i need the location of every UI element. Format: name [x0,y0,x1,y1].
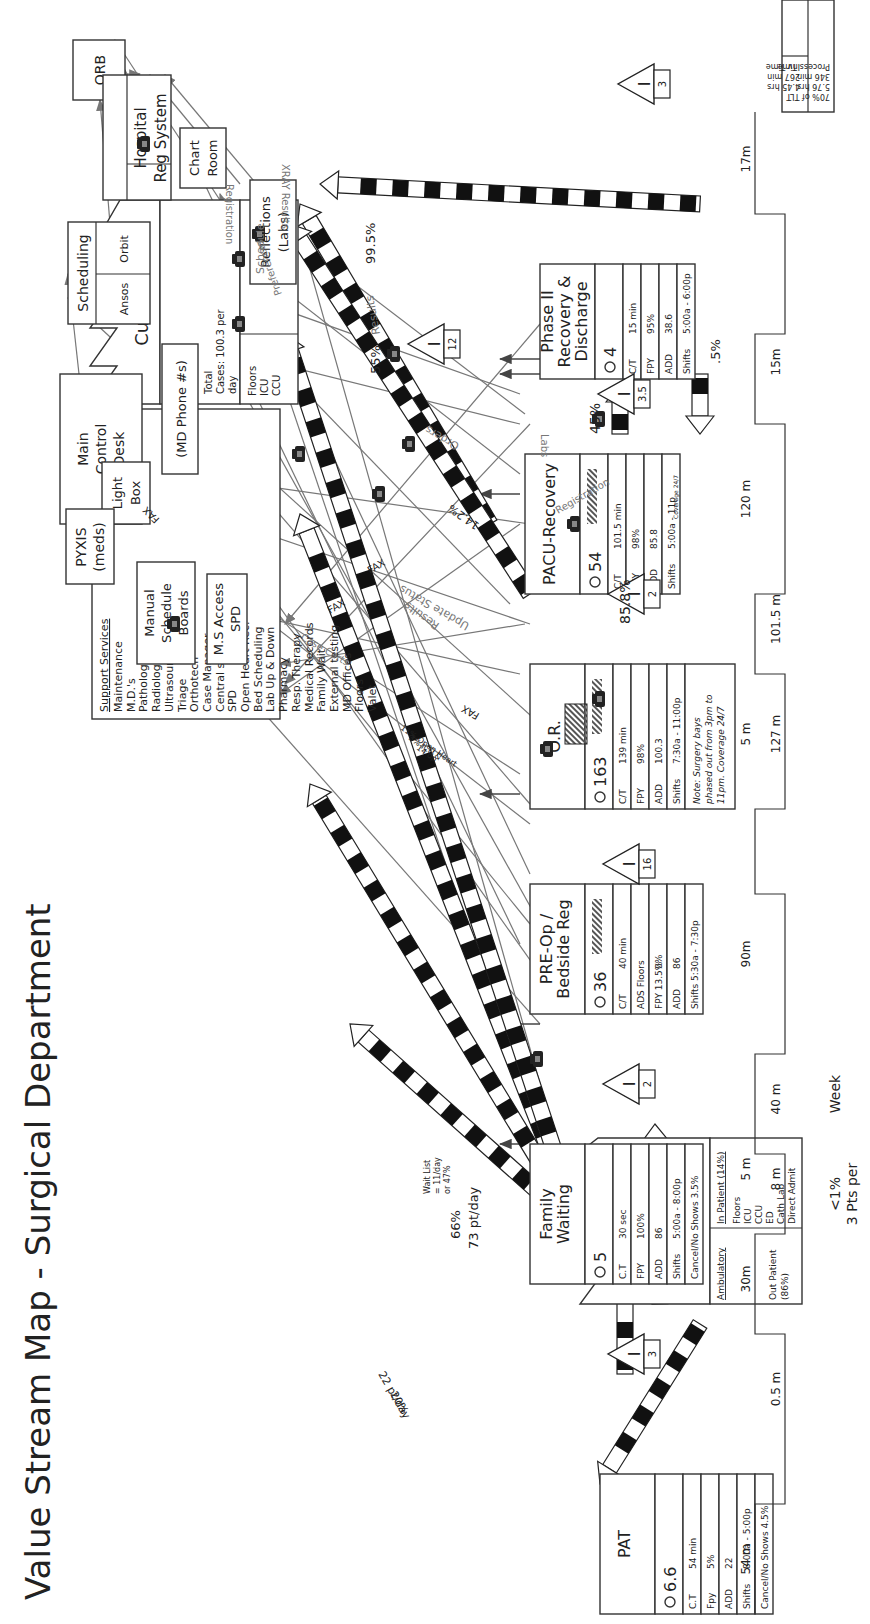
metric-value: 95% [646,314,656,334]
process-note: phased out from 3pm to [704,694,714,805]
support-service-item: Lab Up & Down [264,627,277,712]
chart-room-2: Room [205,139,220,176]
phone-icon [372,486,385,502]
process-or: O.R.163C/T139 minFPY98%ADD100.3Shifts7:3… [530,664,735,809]
metric-value: 5:00a - 8:00p [672,1178,682,1239]
operator-count: 54 [586,552,605,572]
phone-icon [402,436,415,452]
support-service-item: Resp. Therapy [290,633,303,712]
manual-schedule-boards-box: Manual Schedule Boards [137,562,195,664]
ms-access-spd-box: M.S Access SPD [207,574,247,664]
process-name: PACU-Recovery [540,463,559,585]
main-control-desk-box: Main Control Desk Light Box [60,374,150,524]
phase2-back-pct: .5% [708,339,723,364]
timeline-process-time: 0.5 m [769,1372,783,1407]
schedule-board-icon [565,704,587,744]
light-box-1: Light [110,477,125,509]
label-fax-3: FAX [366,557,388,576]
main-control-1: Main [75,432,91,465]
metric-value: 98% [636,744,646,764]
timeline-wait-time: 17m [739,146,753,173]
timeline-process-time: 101.5 m [769,594,783,644]
metric-value: 86 [654,1227,664,1239]
inpatient-heading: In Patient (14%) [716,1152,726,1224]
customer-floors-3: CCU [271,375,282,396]
timeline-ladder: 54 m30m5 m90m5 m120 m17m0.5 m8 m40 m127 … [739,112,785,1614]
operator-count: 5 [591,1252,610,1262]
manual-boards-2: Schedule [159,583,174,643]
label-registration-1: Registration [224,184,235,244]
inventory-icon: I [615,392,634,397]
family-pct: 66% [448,1210,463,1239]
inventory-icon: I [620,862,639,867]
label-labs: Labs [539,434,550,457]
operator-count: 163 [591,756,610,787]
support-service-item: Maintenance [112,641,125,712]
support-service-item: Bed Scheduling [252,626,265,712]
summary-inv-line: 4.45 hrs [767,82,800,91]
metric-value: 22 [724,1558,734,1569]
metric-value: 86 [672,957,682,969]
inv-preop-or: I16 [603,844,655,884]
inventory-icon: I [635,82,654,87]
inpatient-item: CCU [754,1205,764,1224]
metric-label: Shifts [682,349,692,374]
suppliers-note-2: 3 Pts per [844,1163,860,1226]
metric-value: 100% [636,1213,646,1239]
metric-value: 0% [654,954,664,969]
hospital-reg-2: Reg System [152,93,170,182]
push-phase2-customer [319,170,700,218]
inventory-icon: I [620,1082,639,1087]
inventory-count: 12 [447,338,458,351]
wait-list-1: Wait List [423,1160,432,1194]
metric-label: FPY [636,1263,646,1279]
chart-room-box: Chart Room [180,128,226,188]
family-rate: 73 pt/day [466,1186,481,1249]
metric-value: 100.3 [654,738,664,764]
scheduling-label: Scheduling [75,234,91,311]
hospital-reg-system-box: Hospital Reg System [103,75,171,200]
inv-family-preop: I2 [603,1064,655,1104]
summary-process-line: 5.76 hrs [797,82,830,91]
wait-list-2: = 11/day [433,1157,442,1194]
summary-process-line: Process Time [777,62,830,71]
metric-label: FPY [646,358,656,374]
outpatient-line-2: (86%) [780,1273,790,1300]
pacu-phase2-pct: 45% [587,403,603,434]
process-name: Waiting [554,1184,573,1244]
summary-process-line: 346 min [797,72,830,81]
metric-label: Shifts [667,564,677,589]
ansos-label: Ansos [118,282,131,315]
customer-total-1: Total [203,371,214,395]
metric-value: 85.8 [649,529,659,549]
inventory-count: 2 [647,591,658,597]
inpatient-item: ED [765,1211,775,1224]
or-pacu-pct: 85.8% [617,580,633,624]
ms-access-2: SPD [228,606,243,632]
inventory-count: 3.5 [637,386,648,402]
inventory-icon: I [625,1352,644,1357]
timeline-process-time: 127 m [769,715,783,753]
light-box-2: Box [128,481,143,505]
process-preop: PRE-Op /Bedside Reg36C/T40 minADS Floors… [530,884,703,1014]
operator-count: 36 [591,972,610,992]
push-phase2-pacu [686,374,714,434]
support-service-item: Family Wait [315,648,328,712]
timeline-wait-time: 5 m [739,722,753,745]
operator-count: 4 [601,347,620,357]
label-xray-results: XRAY Results [280,164,291,229]
metric-value: 5:00a - 6:00p [682,273,692,334]
support-service-item: Valet [366,684,379,712]
orbit-label: Orbit [118,235,131,263]
scheduling-box: Scheduling Orbit Ansos [68,222,150,324]
timeline-process-time: 40 m [769,1084,783,1115]
suppliers-note-3: Week [827,1074,843,1113]
metric-label: FPY [636,788,646,804]
support-service-item: External testing [328,625,341,712]
push-pacu-customer [288,197,502,531]
inventory-icon: I [425,342,444,347]
customer-floors-2: ICU [259,379,270,396]
metric-value: 101.5 min [613,503,623,549]
pacu-customer-pct: 55% [368,345,383,374]
metric-label: Cancel/No Shows 3.5% [690,1175,700,1279]
